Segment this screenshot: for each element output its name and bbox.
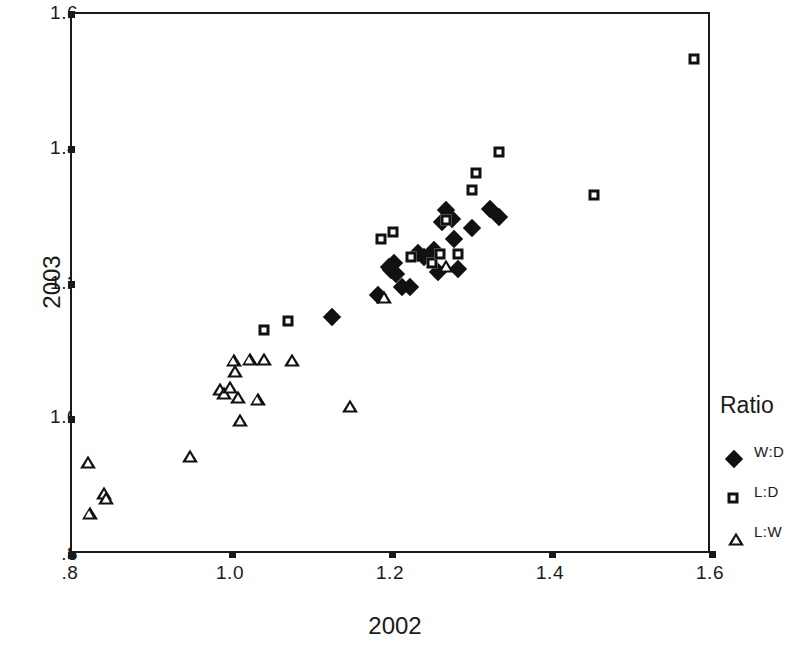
data-point <box>694 59 705 70</box>
open-triangle-marker <box>80 455 96 468</box>
x-tick-mark <box>229 551 236 558</box>
open-square-marker <box>375 233 386 244</box>
legend-item-wd: W:D <box>716 441 790 481</box>
data-point <box>264 330 275 341</box>
open-triangle-marker <box>98 492 114 505</box>
data-point <box>499 152 510 163</box>
data-point <box>106 498 122 511</box>
legend-item-label: L:D <box>754 483 779 500</box>
open-square-marker <box>689 53 700 64</box>
data-point <box>264 359 280 372</box>
data-point <box>190 456 206 469</box>
open-square-marker <box>494 146 505 157</box>
data-point <box>410 287 423 300</box>
data-point <box>235 371 251 384</box>
open-square-marker <box>406 252 417 263</box>
x-tick-label: 1.2 <box>360 562 420 584</box>
filled-diamond-icon <box>728 453 741 466</box>
filled-diamond-marker <box>323 308 341 326</box>
data-point <box>288 321 299 332</box>
open-square-marker <box>588 189 599 200</box>
open-triangle-marker <box>284 354 300 367</box>
open-square-icon <box>728 493 739 504</box>
legend-item-label: W:D <box>754 443 784 460</box>
open-triangle-marker <box>438 259 454 272</box>
open-square-marker <box>283 316 294 327</box>
x-tick-mark <box>549 551 556 558</box>
open-triangle-marker <box>250 393 266 406</box>
data-point <box>258 399 274 412</box>
open-triangle-marker <box>82 507 98 520</box>
open-triangle-marker <box>230 391 246 404</box>
plot-area <box>70 12 710 553</box>
data-point <box>472 228 485 241</box>
data-point <box>476 173 487 184</box>
x-tick-mark <box>709 551 716 558</box>
data-point <box>446 220 457 231</box>
data-point <box>472 190 483 201</box>
x-tick-label: .8 <box>40 562 100 584</box>
legend-item-lw: L:W <box>716 521 790 561</box>
data-point <box>594 195 605 206</box>
open-square-marker <box>467 184 478 195</box>
data-point <box>88 462 104 475</box>
data-point <box>292 360 308 373</box>
y-tick-mark <box>68 416 75 423</box>
data-point <box>332 317 345 330</box>
data-point <box>411 257 422 268</box>
y-tick-mark <box>68 146 75 153</box>
y-tick-mark <box>68 11 75 18</box>
legend-item-ld: L:D <box>716 481 790 521</box>
open-square-marker <box>435 249 446 260</box>
open-triangle-marker <box>342 399 358 412</box>
open-square-marker <box>259 324 270 335</box>
data-point <box>90 513 106 526</box>
legend-title: Ratio <box>720 392 790 419</box>
x-tick-label: 1.4 <box>520 562 580 584</box>
data-point <box>384 297 400 310</box>
legend-item-label: L:W <box>754 523 782 540</box>
data-point <box>350 406 366 419</box>
open-square-marker <box>471 167 482 178</box>
open-triangle-marker <box>182 450 198 463</box>
open-triangle-icon <box>728 533 744 546</box>
open-triangle-marker <box>256 352 272 365</box>
open-square-marker <box>387 227 398 238</box>
data-point <box>240 420 256 433</box>
x-tick-label: 1.6 <box>680 562 740 584</box>
scatter-plot-figure: 2003 1.6 1.4 1.2 1.0 .8 .8 1.0 1.2 1.4 1… <box>0 0 790 653</box>
open-triangle-marker <box>227 365 243 378</box>
open-square-marker <box>441 214 452 225</box>
legend: Ratio W:D L:D L:W <box>716 392 790 561</box>
open-triangle-marker <box>376 290 392 303</box>
x-tick-label: 1.0 <box>200 562 260 584</box>
x-tick-mark <box>69 551 76 558</box>
open-triangle-marker <box>232 413 248 426</box>
open-square-marker <box>453 249 464 260</box>
data-point <box>446 266 462 279</box>
data-point <box>393 232 404 243</box>
data-point <box>499 217 512 230</box>
data-point <box>381 239 392 250</box>
x-axis-title: 2002 <box>0 612 790 640</box>
filled-diamond-marker <box>463 218 481 236</box>
x-tick-mark <box>389 551 396 558</box>
y-tick-mark <box>68 281 75 288</box>
data-point <box>458 254 469 265</box>
